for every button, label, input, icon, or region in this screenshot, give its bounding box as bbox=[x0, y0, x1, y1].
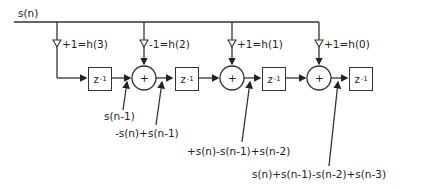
signal-label: s(n)+s(n-1)-s(n-2)+s(n-3) bbox=[252, 169, 386, 180]
adder-symbol: + bbox=[228, 73, 237, 84]
delay-block: z-1 bbox=[262, 67, 286, 91]
diagram-lines bbox=[0, 0, 431, 188]
delay-block: z-1 bbox=[88, 67, 112, 91]
tap-coefficient-h2: -1=h(2) bbox=[149, 39, 190, 50]
delay-block: z-1 bbox=[175, 67, 199, 91]
adder-symbol: + bbox=[315, 73, 324, 84]
adder-symbol: + bbox=[140, 73, 149, 84]
tap-coefficient-h3: +1=h(3) bbox=[62, 39, 108, 50]
delay-block: z-1 bbox=[349, 67, 373, 91]
tap-coefficient-h1: +1=h(1) bbox=[237, 39, 283, 50]
tap-coefficient-h0: +1=h(0) bbox=[324, 39, 370, 50]
signal-label: -s(n)+s(n-1) bbox=[115, 128, 179, 139]
input-signal-label: s(n) bbox=[18, 8, 38, 19]
signal-label: +s(n)-s(n-1)+s(n-2) bbox=[187, 146, 290, 157]
signal-label: s(n-1) bbox=[104, 111, 135, 122]
